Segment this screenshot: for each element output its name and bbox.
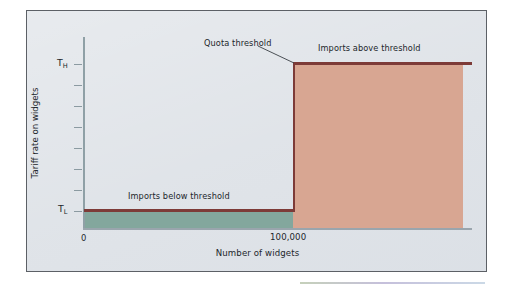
region-imports-above-threshold [293,64,463,228]
tariff-rate-quota-figure: Quota threshold Imports above threshold … [0,0,515,292]
x-tick-label-zero: 0 [81,233,86,243]
scan-artifact-stripe [300,282,485,284]
y-tick-mark [74,106,82,108]
annotation-imports-below-threshold: Imports below threshold [128,191,230,201]
y-axis-title: Tariff rate on widgets [30,68,40,198]
step-segment-threshold-rise [293,62,296,211]
annotation-quota-threshold: Quota threshold [204,38,272,48]
step-segment-low-tariff [84,209,295,211]
y-tick-mark [74,85,82,87]
y-axis-line [83,37,85,229]
region-imports-below-threshold [84,211,293,228]
y-tick-mark [74,64,82,66]
x-axis-title: Number of widgets [0,248,515,258]
plot-area: Quota threshold Imports above threshold … [0,0,515,292]
y-tick-mark [74,169,82,171]
quota-threshold-leader-line [258,46,302,65]
y-tick-mark [74,148,82,150]
y-tick-mark [74,190,82,192]
y-tick-label-t-low: TL [58,203,67,216]
t-low-subscript: L [64,208,68,216]
y-tick-mark [74,127,82,129]
step-segment-high-tariff [293,62,472,65]
t-high-subscript: H [63,62,68,70]
annotation-imports-above-threshold: Imports above threshold [318,43,421,53]
x-tick-label-threshold: 100,000 [270,232,306,242]
x-axis-line [83,228,472,230]
y-tick-mark [74,211,82,213]
y-tick-label-t-high: TH [57,57,68,70]
